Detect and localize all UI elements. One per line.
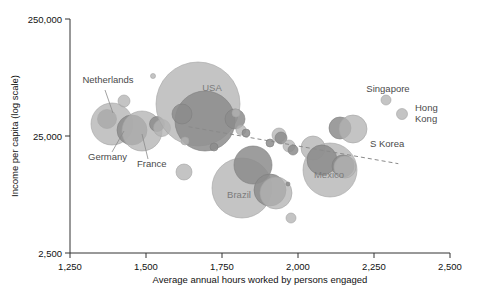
y-tick-label-250000: 250,000 <box>28 14 62 25</box>
x-tick-label-1500: 1,500 <box>134 261 158 272</box>
bubble-usa-sm-low[interactable] <box>210 143 218 151</box>
y-tick-label-25000: 25,000 <box>33 131 62 142</box>
bubble-usa-dk-left[interactable] <box>172 104 192 124</box>
x-tick-label-2250: 2,250 <box>362 261 386 272</box>
label-s-korea: S Korea <box>370 138 405 149</box>
bubble-mid-cluster-d[interactable] <box>288 145 298 155</box>
x-tick-label-1750: 1,750 <box>210 261 234 272</box>
bubble-hongkong[interactable] <box>397 109 408 120</box>
bubble-edge-c[interactable] <box>232 109 240 117</box>
y-tick-label-2500: 2,500 <box>38 248 62 259</box>
chart-canvas: 1,2501,5001,7502,0002,2502,500250,00025,… <box>0 0 478 302</box>
bubble-skorea-light[interactable] <box>339 115 367 143</box>
bubble-tiny-top[interactable] <box>151 74 156 79</box>
x-axis-title: Average annual hours worked by persons e… <box>153 274 368 285</box>
y-axis-title: Income per capita (log scale) <box>9 75 20 197</box>
label-france: France <box>137 158 167 169</box>
x-tick-label-2000: 2,000 <box>286 261 310 272</box>
label-netherlands: Netherlands <box>82 74 133 85</box>
label-germany: Germany <box>88 151 127 162</box>
x-tick-label-2500: 2,500 <box>438 261 462 272</box>
bubble-br-bottom-dot[interactable] <box>286 213 296 223</box>
bubble-chart: 1,2501,5001,7502,0002,2502,500250,00025,… <box>0 0 478 302</box>
bubble-edge-b[interactable] <box>242 129 250 137</box>
label-usa: USA <box>202 82 222 93</box>
label-hong: Hong <box>415 102 438 113</box>
bubble-br-light-low[interactable] <box>260 177 292 209</box>
label-brazil: Brazil <box>227 189 251 200</box>
x-tick-label-1250: 1,250 <box>58 261 82 272</box>
bubble-br-tiny[interactable] <box>286 182 290 186</box>
bubble-singapore[interactable] <box>381 95 391 105</box>
label-kong: Kong <box>415 113 437 124</box>
chart-background <box>0 0 478 302</box>
bubble-mid-float[interactable] <box>176 164 192 180</box>
label-singapore: Singapore <box>366 83 409 94</box>
label-mexico: Mexico <box>314 169 344 180</box>
bubble-nl-small-top[interactable] <box>118 95 130 107</box>
bubble-usa-sm-lowleft[interactable] <box>181 137 189 145</box>
